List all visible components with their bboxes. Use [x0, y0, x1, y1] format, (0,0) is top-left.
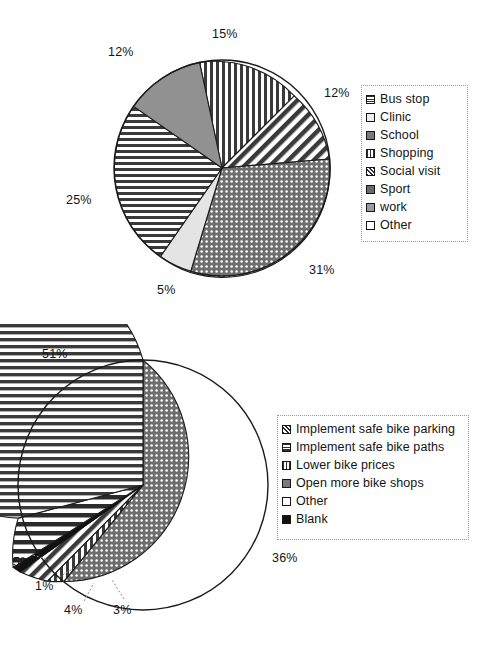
- vertical-stripes-swatch-icon: [366, 149, 375, 158]
- pie-chart-figure-2: 51% 36% 3% 4% 1% 5% Implement safe bike …: [0, 324, 489, 648]
- dots-swatch-icon: [366, 131, 375, 140]
- legend-item-school[interactable]: School: [366, 126, 461, 144]
- slice-percent-label: 36%: [272, 551, 298, 565]
- legend-label: Implement safe bike paths: [296, 440, 444, 454]
- leader-line-3pct: [112, 580, 124, 599]
- legend-item-blank[interactable]: Blank: [282, 510, 462, 528]
- legend-item-lower-bike-prices[interactable]: Lower bike prices: [282, 456, 462, 474]
- legend-item-other[interactable]: Other: [366, 216, 461, 234]
- slice-percent-label: 4%: [64, 603, 82, 617]
- slice-percent-label: 15%: [212, 27, 238, 41]
- legend-figure-1: Bus stop Clinic School Shopping Social v…: [361, 85, 468, 242]
- legend-label: School: [380, 128, 419, 142]
- vertical-stripes-swatch-icon: [282, 461, 291, 470]
- pie-slice-implement-safe-bike-paths: [0, 324, 143, 518]
- legend-item-sport[interactable]: Sport: [366, 180, 461, 198]
- legend-label: Clinic: [380, 110, 411, 124]
- legend-label: Other: [380, 218, 412, 232]
- legend-item-implement-safe-bike-parking[interactable]: Implement safe bike parking: [282, 420, 462, 438]
- white-swatch-icon: [282, 497, 291, 506]
- legend-figure-2: Implement safe bike parking Implement sa…: [277, 415, 469, 540]
- legend-item-social-visit[interactable]: Social visit: [366, 162, 461, 180]
- legend-item-bus-stop[interactable]: Bus stop: [366, 90, 461, 108]
- legend-label: Implement safe bike parking: [296, 422, 455, 436]
- slice-percent-label: 12%: [324, 86, 350, 100]
- horizontal-stripes-swatch-icon: [282, 443, 291, 452]
- horizontal-stripes-swatch-icon: [366, 95, 375, 104]
- white-swatch-icon: [366, 221, 375, 230]
- pie-chart-figure-1: 15% 12% 31% 5% 25% 12% Bus stop Clinic S…: [0, 0, 489, 324]
- slice-percent-label: 5%: [157, 283, 175, 297]
- legend-label: Blank: [296, 512, 328, 526]
- legend-item-implement-safe-bike-paths[interactable]: Implement safe bike paths: [282, 438, 462, 456]
- legend-label: Other: [296, 494, 328, 508]
- slice-percent-label: 12%: [108, 45, 134, 59]
- slice-percent-label: 31%: [309, 263, 335, 277]
- slice-percent-label: 5%: [13, 555, 31, 569]
- legend-label: work: [380, 200, 407, 214]
- legend-label: Bus stop: [380, 92, 429, 106]
- legend-label: Shopping: [380, 146, 434, 160]
- dots-dense-swatch-icon: [366, 185, 375, 194]
- legend-item-shopping[interactable]: Shopping: [366, 144, 461, 162]
- dots-swatch-icon: [282, 479, 291, 488]
- diagonal-stripes-swatch-icon: [366, 167, 375, 176]
- diagonal-stripes-swatch-icon: [282, 425, 291, 434]
- legend-item-clinic[interactable]: Clinic: [366, 108, 461, 126]
- solid-gray-swatch-icon: [366, 203, 375, 212]
- light-gray-swatch-icon: [366, 113, 375, 122]
- legend-label: Social visit: [380, 164, 440, 178]
- legend-item-work[interactable]: work: [366, 198, 461, 216]
- slice-percent-label: 3%: [113, 603, 131, 617]
- legend-label: Open more bike shops: [296, 476, 424, 490]
- legend-label: Sport: [380, 182, 410, 196]
- black-swatch-icon: [282, 515, 291, 524]
- slice-percent-label: 51%: [42, 347, 68, 361]
- legend-label: Lower bike prices: [296, 458, 395, 472]
- legend-item-open-more-bike-shops[interactable]: Open more bike shops: [282, 474, 462, 492]
- slice-percent-label: 25%: [66, 193, 92, 207]
- legend-item-other[interactable]: Other: [282, 492, 462, 510]
- slice-percent-label: 1%: [35, 579, 53, 593]
